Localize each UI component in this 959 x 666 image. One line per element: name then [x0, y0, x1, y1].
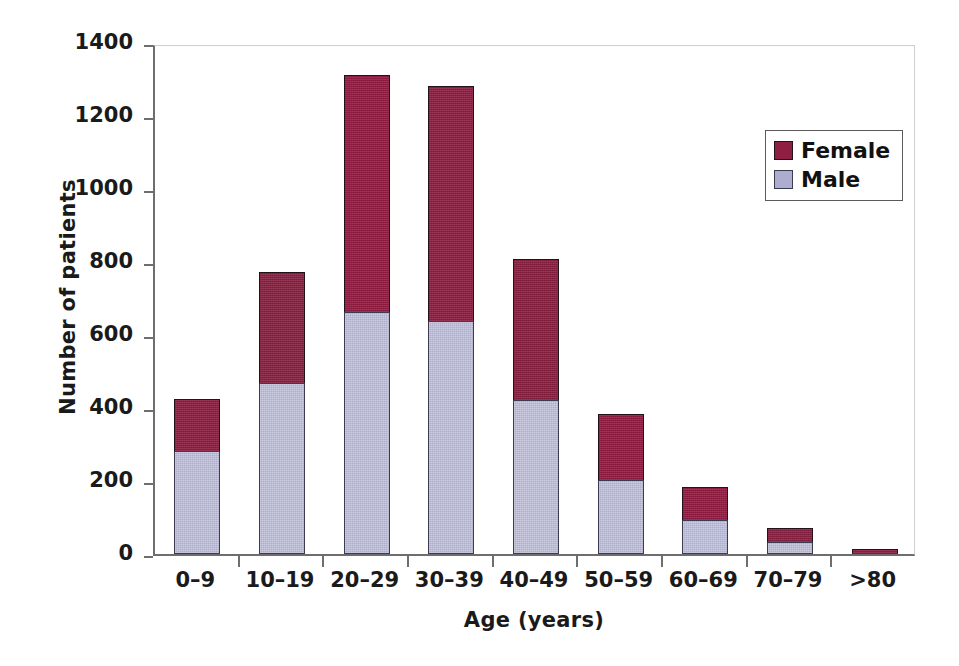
legend-swatch-male-icon	[774, 170, 793, 189]
bar-column	[155, 46, 240, 554]
bar-segment-female[interactable]	[513, 259, 559, 400]
y-axis-tick-label: 0	[23, 541, 133, 565]
y-axis-tick-label: 800	[23, 249, 133, 273]
y-axis-tick-label: 200	[23, 468, 133, 492]
bar-column	[832, 46, 917, 554]
bar-segment-female[interactable]	[598, 414, 644, 481]
bar-stack	[682, 487, 728, 554]
bar-group	[155, 46, 914, 554]
bar-segment-male[interactable]	[344, 312, 390, 554]
bar-segment-male[interactable]	[174, 451, 220, 554]
x-axis-tick-mark	[576, 556, 578, 567]
bar-segment-female[interactable]	[428, 86, 474, 321]
bar-segment-female[interactable]	[174, 399, 220, 451]
x-axis-title: Age (years)	[153, 608, 915, 632]
y-axis-tick-mark	[144, 410, 153, 412]
x-axis-tick-mark	[407, 556, 409, 567]
y-axis-tick-label: 600	[23, 322, 133, 346]
y-axis-tick-label: 1400	[23, 30, 133, 54]
legend-label: Male	[801, 169, 860, 191]
plot-area	[153, 45, 915, 556]
x-axis-tick-mark	[661, 556, 663, 567]
bar-segment-male[interactable]	[428, 321, 474, 554]
bar-column	[748, 46, 833, 554]
x-axis-tick-label: >80	[813, 568, 933, 592]
bar-stack	[767, 528, 813, 554]
bar-segment-female[interactable]	[259, 272, 305, 383]
bar-stack	[598, 414, 644, 555]
bar-segment-female[interactable]	[682, 487, 728, 519]
bar-segment-female[interactable]	[852, 549, 898, 554]
bar-column	[240, 46, 325, 554]
x-axis-tick-mark	[322, 556, 324, 567]
y-axis-tick-mark	[144, 45, 153, 47]
bar-segment-female[interactable]	[344, 75, 390, 312]
bar-stack	[513, 259, 559, 554]
bar-stack	[259, 272, 305, 554]
y-axis-tick-label: 400	[23, 395, 133, 419]
x-axis-tick-mark	[746, 556, 748, 567]
bar-column	[409, 46, 494, 554]
bar-column	[578, 46, 663, 554]
bar-segment-male[interactable]	[513, 400, 559, 554]
bar-stack	[344, 75, 390, 554]
x-axis-tick-mark	[492, 556, 494, 567]
x-axis-tick-mark	[238, 556, 240, 567]
y-axis-tick-mark	[144, 337, 153, 339]
y-axis-tick-mark	[144, 556, 153, 558]
bar-segment-male[interactable]	[682, 520, 728, 554]
bar-column	[324, 46, 409, 554]
bar-stack	[428, 86, 474, 554]
y-axis-tick-mark	[144, 118, 153, 120]
y-axis-tick-label: 1000	[23, 176, 133, 200]
stacked-bar-chart-figure: Number of patients 020040060080010001200…	[0, 0, 959, 666]
y-axis-tick-mark	[144, 264, 153, 266]
bar-segment-female[interactable]	[767, 528, 813, 542]
bar-segment-male[interactable]	[767, 542, 813, 554]
bar-column	[663, 46, 748, 554]
legend-item-male[interactable]: Male	[774, 165, 890, 194]
y-axis-tick-mark	[144, 191, 153, 193]
x-axis-tick-mark	[830, 556, 832, 567]
bar-segment-male[interactable]	[598, 480, 644, 554]
chart-legend: FemaleMale	[765, 130, 903, 201]
y-axis-tick-mark	[144, 483, 153, 485]
legend-item-female[interactable]: Female	[774, 136, 890, 165]
bar-column	[494, 46, 579, 554]
legend-swatch-female-icon	[774, 141, 793, 160]
bar-stack	[852, 549, 898, 554]
legend-label: Female	[801, 140, 890, 162]
bar-stack	[174, 399, 220, 554]
bar-segment-male[interactable]	[259, 383, 305, 554]
y-axis-tick-label: 1200	[23, 103, 133, 127]
